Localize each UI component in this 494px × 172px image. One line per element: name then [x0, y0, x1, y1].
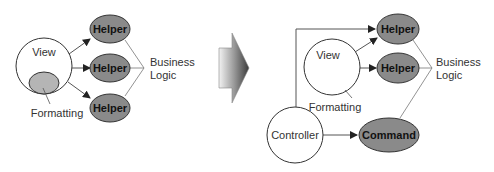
view-label: View — [32, 46, 56, 58]
business-logic-label: Business — [150, 56, 195, 68]
command-label: Command — [362, 129, 416, 141]
before-diagram: View Formatting Helper Helper Helper Bus… — [16, 15, 195, 122]
helper-label: Helper — [381, 62, 416, 74]
view-node — [304, 39, 360, 95]
right-arrow-icon — [219, 33, 249, 103]
business-logic-label: Logic — [150, 69, 177, 81]
business-logic-label: Logic — [436, 69, 463, 81]
helper-label: Helper — [93, 62, 128, 74]
helper-label: Helper — [93, 23, 128, 35]
after-diagram: View Formatting Helper Helper Controller… — [267, 14, 481, 163]
helper-label: Helper — [93, 102, 128, 114]
controller-label: Controller — [271, 129, 319, 141]
business-logic-label: Business — [436, 56, 481, 68]
view-label: View — [316, 49, 340, 61]
formatting-label: Formatting — [31, 107, 84, 119]
helper-label: Helper — [381, 23, 416, 35]
architecture-diagram: View Formatting Helper Helper Helper Bus… — [0, 0, 494, 172]
formatting-label: Formatting — [309, 101, 362, 113]
